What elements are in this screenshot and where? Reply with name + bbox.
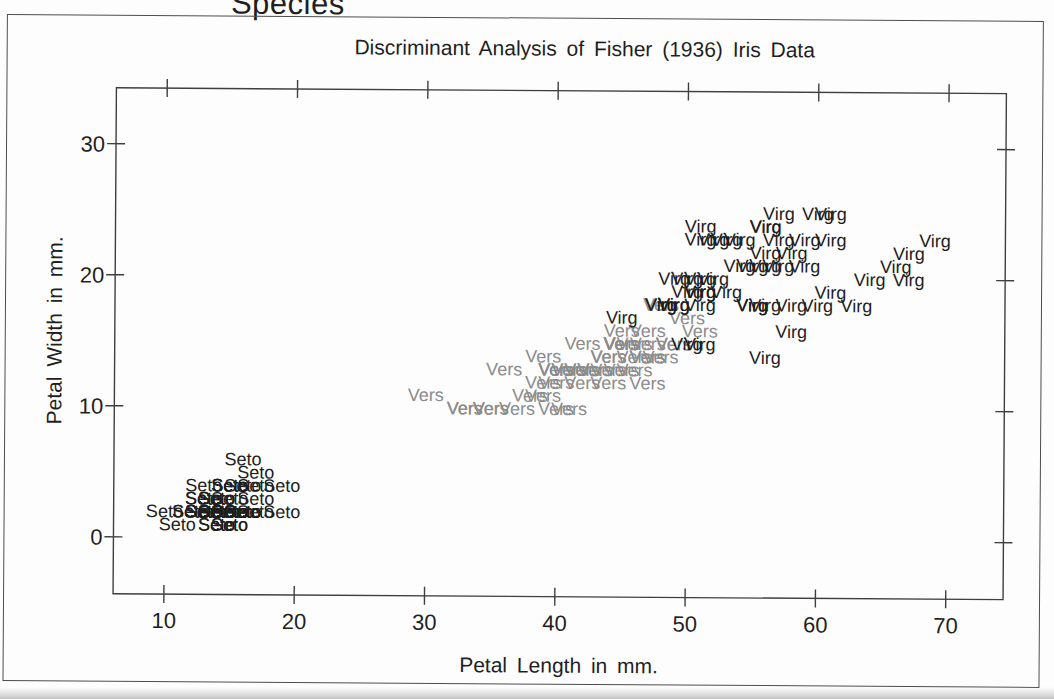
page-edge-shadow xyxy=(0,687,1054,699)
scatter-plot: 102030405060700102030SetoSetoSetoSetoSet… xyxy=(0,0,1054,699)
scanned-figure-page: Species Discriminant Analysis of Fisher … xyxy=(0,0,1054,699)
y-tick-label: 20 xyxy=(80,263,105,288)
point-label-virg: Virg xyxy=(854,270,886,290)
x-tick-label: 30 xyxy=(412,610,437,635)
point-label-virg: Virg xyxy=(736,295,768,315)
point-label-virg: Virg xyxy=(919,231,951,251)
point-label-virg: Virg xyxy=(749,348,781,368)
point-label-vers: Vers xyxy=(486,359,522,379)
point-label-vers: Vers xyxy=(629,373,665,393)
point-label-seto: Seto xyxy=(224,449,261,469)
point-label-virg: Virg xyxy=(763,204,795,224)
point-label-vers: Vers xyxy=(447,398,483,418)
x-tick-label: 40 xyxy=(542,611,567,636)
y-tick-label: 0 xyxy=(90,525,102,550)
point-label-seto: Seto xyxy=(263,476,300,496)
point-label-vers: Vers xyxy=(616,347,652,367)
x-tick-label: 20 xyxy=(282,609,307,634)
x-axis-title: Petal Length in mm. xyxy=(359,652,759,679)
point-label-vers: Vers xyxy=(408,385,444,405)
point-label-virg: Virg xyxy=(724,230,756,250)
y-tick-label: 10 xyxy=(79,394,104,419)
point-label-vers: Vers xyxy=(499,399,535,419)
point-label-virg: Virg xyxy=(697,269,729,289)
point-label-virg: Virg xyxy=(684,334,716,354)
figure-scene: Species Discriminant Analysis of Fisher … xyxy=(0,0,1054,699)
point-label-vers: Vers xyxy=(551,360,587,380)
point-label-seto: Seto xyxy=(263,502,300,522)
x-tick-label: 50 xyxy=(673,611,698,636)
point-label-virg: Virg xyxy=(775,322,807,342)
x-tick-label: 60 xyxy=(803,612,828,637)
x-tick-label: 70 xyxy=(933,613,958,638)
point-label-seto: Seto xyxy=(198,501,235,521)
y-tick-label: 30 xyxy=(80,131,105,156)
point-label-virg: Virg xyxy=(893,270,925,290)
point-label-virg: Virg xyxy=(684,295,716,315)
point-label-virg: Virg xyxy=(789,230,821,250)
point-label-virg: Virg xyxy=(815,283,847,303)
x-tick-label: 10 xyxy=(151,608,176,633)
point-label-virg: Virg xyxy=(606,308,638,328)
y-axis-title: Petal Width in mm. xyxy=(42,236,67,424)
point-label-virg: Virg xyxy=(815,204,847,224)
